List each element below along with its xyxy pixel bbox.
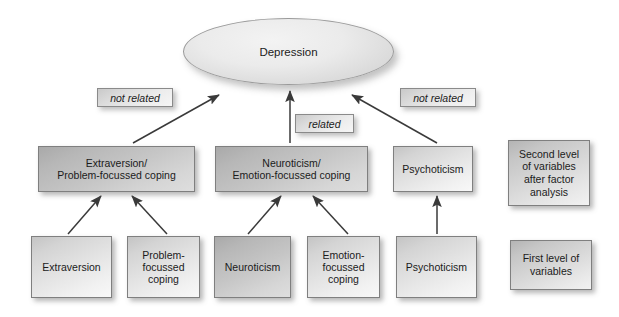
node-psychoticism-first-level[interactable]: Psychoticism — [396, 236, 477, 298]
edge-label-not-related-left[interactable]: not related — [97, 88, 173, 107]
node-emotion-focussed-coping[interactable]: Emotion- focussed coping — [307, 236, 380, 298]
node-depression-label: Depression — [259, 46, 317, 58]
edge-label-text: related — [308, 118, 340, 130]
node-extraversion[interactable]: Extraversion — [31, 236, 112, 298]
node-depression[interactable]: Depression — [183, 18, 394, 85]
node-extraversion-problem-focussed[interactable]: Extraversion/ Problem-focussed coping — [38, 146, 195, 192]
node-label: Neuroticism — [225, 261, 280, 273]
legend-label: Second level of variables after factor a… — [519, 148, 579, 198]
node-label: Extraversion — [42, 261, 100, 273]
edge-problem-to-extraversion2 — [132, 196, 167, 234]
node-label: Emotion- focussed coping — [322, 249, 364, 286]
edge-extraversion1-to-extraversion2 — [68, 196, 101, 234]
edge-label-text: not related — [413, 92, 463, 104]
edge-label-not-related-right[interactable]: not related — [400, 88, 476, 107]
legend-second-level-of-variables: Second level of variables after factor a… — [508, 140, 590, 206]
legend-first-level-of-variables: First level of variables — [510, 240, 592, 290]
edge-neuroticism1-to-neuroticism2 — [248, 196, 281, 234]
node-psychoticism-second-level[interactable]: Psychoticism — [393, 146, 473, 192]
edge-label-text: not related — [110, 92, 160, 104]
node-label: Psychoticism — [406, 261, 467, 273]
node-label: Problem- focussed coping — [142, 249, 185, 286]
legend-label: First level of variables — [523, 252, 580, 277]
diagram-canvas: Depression not related related not relat… — [0, 0, 619, 317]
node-neuroticism[interactable]: Neuroticism — [214, 236, 291, 298]
node-problem-focussed-coping[interactable]: Problem- focussed coping — [127, 236, 200, 298]
edge-label-related-center[interactable]: related — [295, 114, 354, 133]
node-label: Neuroticism/ Emotion-focussed coping — [233, 157, 351, 181]
node-label: Extraversion/ Problem-focussed coping — [57, 157, 175, 181]
node-label: Psychoticism — [402, 163, 463, 175]
node-neuroticism-emotion-focussed[interactable]: Neuroticism/ Emotion-focussed coping — [215, 146, 368, 192]
edge-emotion-to-neuroticism2 — [313, 196, 348, 234]
